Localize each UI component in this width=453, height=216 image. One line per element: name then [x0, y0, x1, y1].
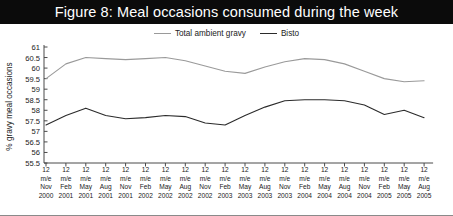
figure-container: Figure 8: Meal occasions consumed during…	[0, 0, 453, 216]
series-line-bisto	[46, 100, 424, 125]
x-axis-tick-labels: 12m/eNov200012m/eFeb200112m/eMay200112m/…	[0, 166, 453, 212]
x-axis-tick-label: 12m/eAug2005	[411, 166, 437, 200]
x-axis-tick-label-year: 2005	[411, 192, 437, 201]
series-line-total-ambient-gravy	[46, 58, 424, 82]
x-axis-tick-label-month: Aug	[411, 183, 437, 192]
x-axis-tick-label-basis: m/e	[411, 175, 437, 184]
x-axis-tick-label-period: 12	[411, 166, 437, 175]
